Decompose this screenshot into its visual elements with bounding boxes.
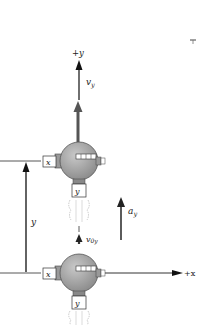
spacecraft-lower: x y [43,254,105,325]
x-thruster-label: x [46,158,51,167]
displacement-label: y [30,217,37,227]
acceleration-label: ay [128,206,137,218]
initial-velocity-arrow [76,226,83,244]
x-axis-label: +x [184,269,196,278]
y-axis-arrow [76,60,83,100]
displacement-arrow [23,162,30,272]
velocity-arrow [74,101,83,142]
initial-velocity-label: v0y [86,235,98,245]
velocity-label: vy [86,77,95,89]
acceleration-arrow [117,197,125,240]
y-thruster-label-lower: y [74,299,80,308]
diagram-canvas: +y vy x y y ay [0,0,197,325]
x-thruster-label-lower: x [46,270,51,279]
y-thruster-label: y [74,187,80,196]
y-axis-label: +y [72,48,84,58]
corner-mark [190,40,196,44]
spacecraft-upper: x y [43,142,105,222]
